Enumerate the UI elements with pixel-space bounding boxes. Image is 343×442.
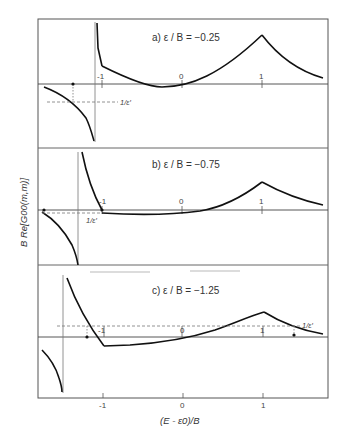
bottom-tick-label-0: 0 <box>180 401 185 410</box>
x-axis-label: (E - ε0)/B <box>160 415 200 426</box>
figure: -1 0 1 a) ε / B = −0.25 1/ε′ -1 0 1 b) ε… <box>0 0 343 442</box>
curve-pole-branch <box>97 23 102 66</box>
tick-label-minus1: -1 <box>99 197 107 206</box>
bottom-tick-label-1: 1 <box>261 401 266 410</box>
tick-label-minus1: -1 <box>98 326 106 335</box>
y-axis-label: B Re[G00(m,m)] <box>18 177 29 247</box>
tick-label-0: 0 <box>179 197 184 206</box>
panel-a: -1 0 1 a) ε / B = −0.25 1/ε′ <box>38 22 328 142</box>
reference-label: 1/ε′ <box>302 321 314 330</box>
reference-label: 1/ε′ <box>120 98 132 107</box>
solution-marker <box>292 333 295 336</box>
panel-title: c) ε / B = −1.25 <box>152 285 220 296</box>
tick-label-1: 1 <box>259 197 264 206</box>
curve-left <box>42 350 62 392</box>
panel-c: -1 0 1 c) ε / B = −1.25 1/ε′ <box>38 275 328 393</box>
solution-marker <box>100 208 103 211</box>
curve-pole-branch <box>67 278 104 346</box>
curve-right <box>264 312 323 334</box>
curve-right <box>262 35 323 78</box>
tick-label-minus1: -1 <box>97 72 105 81</box>
panel-title: b) ε / B = −0.75 <box>152 159 220 170</box>
tick-label-0: 0 <box>179 72 184 81</box>
panel-b: -1 0 1 b) ε / B = −0.75 1/ε′ B Re[G00(m,… <box>18 152 328 265</box>
bottom-tick-label-minus1: -1 <box>99 401 107 410</box>
tick-label-1: 1 <box>259 72 264 81</box>
tick-label-0: 0 <box>180 326 185 335</box>
curve-left <box>44 87 94 141</box>
solution-marker <box>85 335 88 338</box>
solution-marker <box>71 82 74 85</box>
curve-left <box>42 212 78 265</box>
reference-label: 1/ε′ <box>86 216 98 225</box>
solution-marker <box>42 208 45 211</box>
curve-right <box>262 182 323 205</box>
tick-label-1: 1 <box>260 326 265 335</box>
panel-title: a) ε / B = −0.25 <box>152 32 220 43</box>
